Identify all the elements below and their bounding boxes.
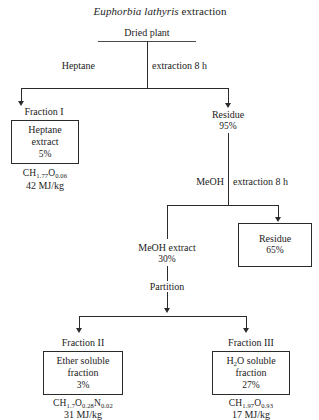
- box-fraction-2-line1: Ether soluble: [56, 355, 109, 368]
- box-residue-65-pct: 65%: [266, 245, 283, 257]
- caption-fraction-3: Fraction III: [228, 337, 274, 348]
- formula-f2-sub3: 0.02: [101, 402, 113, 409]
- node-dried-plant: Dried plant: [124, 27, 169, 38]
- edge-to-meoh-extract: [167, 205, 168, 239]
- box-fraction-3-line1: H2O soluble: [226, 355, 275, 368]
- formula-fraction-3: CH1.97O0.93: [229, 398, 273, 409]
- edge-label-meoh-extraction: extraction 8 h: [233, 176, 288, 187]
- branch-bar-meoh: [167, 205, 278, 206]
- formula-f2-sub1: 1.7: [67, 402, 76, 409]
- diagram-title: Euphorbia lathyris extraction: [93, 5, 226, 17]
- box-fraction-2-pct: 3%: [77, 380, 90, 392]
- formula-f2-el3: N: [94, 398, 101, 408]
- arrowhead-fraction-1: [18, 101, 24, 106]
- box-fraction-2-line2: fraction: [67, 367, 98, 380]
- box-f3-rest: O soluble: [237, 355, 276, 366]
- diagram-title-species: Euphorbia lathyris: [93, 5, 178, 17]
- formula-f2-el2: O: [75, 398, 82, 408]
- branch-bar-partition: [79, 316, 246, 317]
- node-residue-95: Residue: [212, 109, 244, 120]
- formula-f3-base: CH: [229, 398, 242, 408]
- formula-f1-sub2: 0.06: [55, 172, 67, 179]
- formula-f3-sub2: 0.93: [261, 402, 273, 409]
- box-residue-65: Residue 65%: [238, 223, 312, 267]
- formula-f3-sub1: 1.97: [242, 402, 254, 409]
- edge-residue-95-to-meoh: [228, 133, 229, 205]
- box-ether-soluble-fraction: Ether soluble fraction 3%: [43, 351, 123, 395]
- box-heptane-extract-pct: 5%: [39, 149, 52, 161]
- arrowhead-fraction-2: [76, 328, 82, 333]
- box-heptane-extract-line1: Heptane: [28, 124, 61, 137]
- caption-fraction-2: Fraction II: [62, 337, 105, 348]
- box-f3-h: H: [226, 355, 233, 366]
- edge-label-meoh: MeOH: [196, 176, 224, 187]
- formula-fraction-2: CH1.7O0.28N0.02: [53, 398, 113, 409]
- box-f3-sub2: 2: [234, 360, 237, 367]
- box-fraction-3-pct: 27%: [242, 380, 259, 392]
- node-residue-95-pct: 95%: [219, 121, 236, 132]
- flowchart-diagram: Euphorbia lathyris extraction Dried plan…: [0, 0, 319, 420]
- arrowhead-residue-95: [225, 103, 231, 108]
- arrowhead-fraction-3: [243, 328, 249, 333]
- energy-fraction-3: 17 MJ/kg: [232, 409, 270, 420]
- edge-label-partition: Partition: [147, 281, 187, 292]
- edge-label-heptane: Heptane: [62, 60, 95, 71]
- branch-bar-heptane: [21, 88, 229, 89]
- energy-fraction-1: 42 MJ/kg: [26, 180, 64, 191]
- node-meoh-extract-pct: 30%: [158, 254, 175, 265]
- formula-f2-sub2: 0.28: [82, 402, 94, 409]
- formula-f1-sub1: 1.77: [36, 172, 48, 179]
- formula-f2-base: CH: [53, 398, 66, 408]
- edge-label-heptane-extraction: extraction 8 h: [152, 60, 207, 71]
- box-residue-65-label: Residue: [259, 233, 291, 246]
- arrowhead-partition: [164, 308, 170, 313]
- arrowhead-residue-65: [275, 217, 281, 222]
- box-water-soluble-fraction: H2O soluble fraction 27%: [212, 351, 290, 395]
- formula-fraction-1: CH1.77O0.06: [23, 168, 67, 179]
- box-heptane-extract: Heptane extract 5%: [11, 120, 79, 164]
- caption-fraction-1: Fraction I: [24, 106, 63, 117]
- box-fraction-3-line2: fraction: [235, 367, 266, 380]
- node-meoh-extract: MeOH extract: [138, 242, 195, 253]
- edge-dried-plant-to-heptane: [147, 41, 148, 88]
- formula-f1-base: CH: [23, 168, 36, 178]
- diagram-title-suffix: extraction: [179, 5, 227, 17]
- energy-fraction-2: 31 MJ/kg: [64, 409, 102, 420]
- box-heptane-extract-line2: extract: [31, 136, 58, 149]
